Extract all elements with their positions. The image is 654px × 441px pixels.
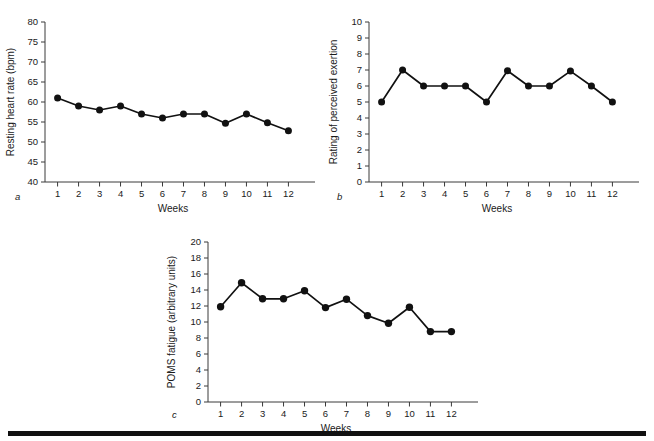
data-point-marker (96, 107, 103, 114)
y-tick-label: 10 (190, 316, 201, 327)
panel-label-a: a (15, 192, 20, 202)
x-tick-label: 12 (446, 408, 457, 419)
data-point-marker (217, 303, 224, 310)
x-tick-label: 8 (526, 188, 531, 199)
data-point-marker (483, 99, 490, 106)
x-tick-label: 6 (323, 408, 328, 419)
x-tick-label: 11 (586, 188, 596, 199)
x-tick-label: 7 (344, 408, 349, 419)
x-tick-label: 6 (484, 188, 489, 199)
data-point-marker (441, 83, 448, 90)
y-tick-label: 80 (27, 16, 38, 27)
data-point-marker (399, 67, 406, 74)
x-tick-label: 9 (386, 408, 391, 419)
figure-root: 404550556065707580123456789101112WeeksRe… (0, 0, 654, 441)
data-point-marker (259, 295, 266, 302)
y-axis-title: Rating of perceived exertion (328, 40, 339, 165)
x-tick-label: 4 (118, 188, 123, 199)
y-tick-label: 14 (190, 284, 201, 295)
data-point-marker (243, 111, 250, 118)
x-tick-label: 2 (239, 408, 244, 419)
data-point-marker (448, 328, 455, 335)
data-point-marker (420, 83, 427, 90)
data-point-marker (525, 83, 532, 90)
y-tick-label: 8 (196, 332, 201, 343)
y-tick-label: 55 (27, 116, 38, 127)
x-tick-label: 7 (505, 188, 510, 199)
data-point-marker (159, 115, 166, 122)
y-tick-label: 4 (357, 112, 362, 123)
series-line (221, 283, 452, 332)
x-tick-label: 7 (181, 188, 186, 199)
x-tick-label: 11 (262, 188, 272, 199)
panel-label-c: c (172, 410, 177, 420)
chart-panel-a: 404550556065707580123456789101112WeeksRe… (0, 6, 330, 216)
y-tick-label: 50 (27, 136, 38, 147)
data-point-marker (222, 120, 229, 127)
data-point-marker (301, 287, 308, 294)
y-tick-label: 3 (357, 128, 362, 139)
data-point-marker (462, 83, 469, 90)
x-tick-label: 12 (283, 188, 294, 199)
x-tick-label: 1 (379, 188, 384, 199)
data-point-marker (280, 295, 287, 302)
y-tick-label: 2 (357, 144, 362, 155)
x-tick-label: 3 (97, 188, 102, 199)
x-tick-label: 5 (302, 408, 307, 419)
y-tick-label: 16 (190, 268, 201, 279)
data-point-marker (427, 328, 434, 335)
y-tick-label: 7 (357, 64, 362, 75)
y-tick-label: 18 (190, 252, 201, 263)
chart-panel-b: 012345678910123456789101112WeeksRating o… (322, 6, 654, 216)
data-point-marker (378, 99, 385, 106)
x-tick-label: 2 (400, 188, 405, 199)
x-tick-label: 5 (463, 188, 468, 199)
y-tick-label: 0 (357, 176, 362, 187)
data-point-marker (322, 304, 329, 311)
data-point-marker (504, 67, 511, 74)
x-tick-label: 2 (76, 188, 81, 199)
y-tick-label: 45 (27, 156, 38, 167)
x-tick-label: 3 (260, 408, 265, 419)
x-tick-label: 1 (55, 188, 60, 199)
panel-label-b: b (337, 192, 342, 202)
data-point-marker (117, 103, 124, 110)
data-point-marker (138, 111, 145, 118)
x-tick-label: 5 (139, 188, 144, 199)
data-point-marker (385, 320, 392, 327)
x-axis-title: Weeks (158, 203, 188, 214)
y-tick-label: 60 (27, 96, 38, 107)
y-tick-label: 12 (190, 300, 201, 311)
y-tick-label: 6 (196, 348, 201, 359)
data-point-marker (588, 83, 595, 90)
x-tick-label: 10 (565, 188, 576, 199)
chart-panel-c: 02468101214161820123456789101112WeeksPOM… (160, 232, 496, 432)
y-tick-label: 6 (357, 80, 362, 91)
data-point-marker (238, 279, 245, 286)
y-axis-title: Resting heart rate (bpm) (5, 48, 16, 156)
y-tick-label: 40 (27, 176, 38, 187)
bottom-rule-divider (8, 431, 646, 436)
x-tick-label: 4 (442, 188, 447, 199)
chart-a-canvas: 404550556065707580123456789101112WeeksRe… (0, 6, 330, 216)
data-point-marker (180, 111, 187, 118)
y-tick-label: 4 (196, 364, 201, 375)
data-point-marker (546, 83, 553, 90)
x-tick-label: 6 (160, 188, 165, 199)
y-tick-label: 65 (27, 76, 38, 87)
x-tick-label: 8 (202, 188, 207, 199)
x-tick-label: 9 (547, 188, 552, 199)
x-axis-title: Weeks (482, 203, 512, 214)
x-tick-label: 8 (365, 408, 370, 419)
chart-c-canvas: 02468101214161820123456789101112WeeksPOM… (160, 232, 496, 432)
data-point-marker (285, 127, 292, 134)
data-point-marker (567, 68, 574, 75)
y-tick-label: 20 (190, 236, 201, 247)
data-point-marker (264, 119, 271, 126)
y-tick-label: 2 (196, 380, 201, 391)
y-tick-label: 9 (357, 32, 362, 43)
x-tick-label: 1 (218, 408, 223, 419)
series-line (382, 70, 613, 102)
x-tick-label: 10 (241, 188, 252, 199)
x-tick-label: 11 (425, 408, 435, 419)
